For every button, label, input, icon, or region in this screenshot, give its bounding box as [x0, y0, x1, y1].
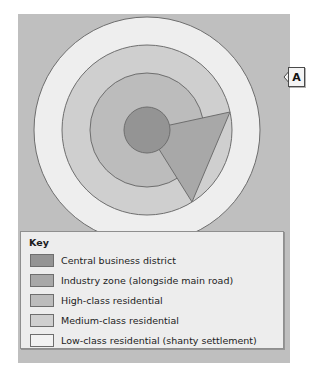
key-row-industry: Industry zone (alongside main road): [28, 271, 276, 290]
key-box: Key Central business district Industry z…: [20, 231, 284, 349]
key-row-high-class: High-class residential: [28, 291, 276, 310]
key-swatch-low-class: [30, 334, 54, 347]
zone-central-business-district: [124, 107, 170, 153]
key-label-industry: Industry zone (alongside main road): [61, 276, 233, 286]
callout-a-letter: A: [289, 68, 304, 86]
callout-a-box: A: [288, 67, 305, 87]
key-label-low-class: Low-class residential (shanty settlement…: [61, 336, 257, 346]
key-swatch-high-class: [30, 294, 54, 307]
key-row-medium-class: Medium-class residential: [28, 311, 276, 330]
key-label-high-class: High-class residential: [61, 296, 163, 306]
key-label-cbd: Central business district: [61, 256, 176, 266]
key-list: Central business district Industry zone …: [28, 251, 276, 350]
key-swatch-cbd: [30, 254, 54, 267]
callout-label-a: A: [283, 67, 305, 89]
figure-root: A Key Central business district Industry…: [0, 0, 317, 381]
key-row-low-class: Low-class residential (shanty settlement…: [28, 331, 276, 350]
key-title: Key: [29, 238, 276, 248]
key-label-medium-class: Medium-class residential: [61, 316, 179, 326]
key-row-cbd: Central business district: [28, 251, 276, 270]
key-swatch-industry: [30, 274, 54, 287]
key-swatch-medium-class: [30, 314, 54, 327]
